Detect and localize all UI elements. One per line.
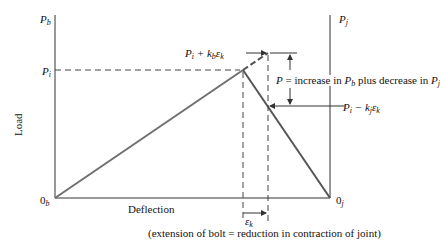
p-annotation: PP = increase in = increase in Pb plus d… xyxy=(275,75,441,86)
origin-joint-label: 0j xyxy=(336,195,344,206)
bolt-extension-dashed-line xyxy=(243,53,268,70)
load-deflection-diagram xyxy=(0,0,442,243)
joint-axis-label: Pj xyxy=(339,14,348,25)
joint-load-label: Pi − kjεk xyxy=(343,102,380,113)
preload-label: Pi xyxy=(42,66,51,77)
x-axis-label: Deflection xyxy=(128,204,174,215)
caption: (extension of bolt = reduction in contra… xyxy=(148,228,381,239)
y-axis-label: Load xyxy=(13,113,24,136)
bolt-load-label: Pi + kbεk xyxy=(185,48,224,59)
origin-bolt-label: 0b xyxy=(40,195,50,206)
joint-stiffness-line xyxy=(243,70,330,198)
bolt-stiffness-line xyxy=(55,70,243,198)
extension-label: εk xyxy=(245,216,253,227)
bolt-axis-label: Pb xyxy=(40,14,51,25)
